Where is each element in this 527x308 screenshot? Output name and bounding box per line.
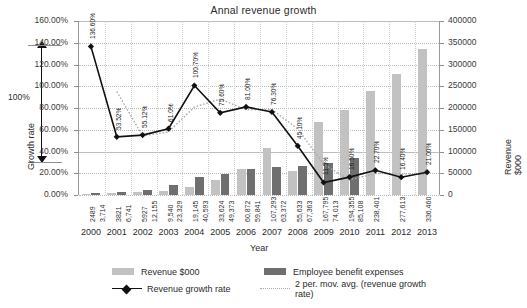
data-point-marker xyxy=(140,132,146,138)
data-point-marker xyxy=(372,167,378,173)
growth-rate-value-label: 136.60% xyxy=(89,13,96,39)
growth-rate-value-label: 16.40% xyxy=(399,148,406,170)
growth-rate-value-label: 100.70% xyxy=(192,52,199,78)
data-point-marker xyxy=(114,134,120,140)
growth-rate-value-label: 21.00% xyxy=(425,143,432,165)
data-point-marker xyxy=(243,104,249,110)
legend-label-growth-rate: Revenue growth rate xyxy=(147,284,231,294)
growth-rate-value-label: 61.0% xyxy=(167,103,174,122)
line-series-layer xyxy=(0,0,527,308)
legend-swatch-expenses-icon xyxy=(264,268,286,275)
data-point-marker xyxy=(398,174,404,180)
legend-label-moving-average: 2 per. mov. avg. (revenue growth rate) xyxy=(295,279,442,299)
growth-rate-value-label: 11.5% xyxy=(322,157,329,175)
legend-label-revenue: Revenue $000 xyxy=(141,267,200,277)
growth-rate-value-label: 16.50% xyxy=(348,148,355,170)
growth-rate-value-label: 76.30% xyxy=(270,83,277,105)
growth-rate-value-label: 75.60% xyxy=(218,83,225,105)
legend-item-revenue: Revenue $000 xyxy=(112,267,264,277)
legend-swatch-revenue-icon xyxy=(112,268,134,275)
legend-item-growth-rate: Revenue growth rate xyxy=(112,284,260,294)
growth-rate-value-label: 53.52% xyxy=(115,107,122,129)
legend-line-diamond-icon xyxy=(112,284,142,293)
growth-rate-value-label: 22.70% xyxy=(373,141,380,163)
growth-rate-value-label: 45.10% xyxy=(296,117,303,139)
data-point-marker xyxy=(424,169,430,175)
chart-container: Annal revenue growth 100% Growth rate Re… xyxy=(0,0,527,308)
chart-legend: Revenue $000 Employee benefit expenses R… xyxy=(112,263,442,297)
data-point-marker xyxy=(88,43,94,49)
legend-label-expenses: Employee benefit expenses xyxy=(293,267,404,277)
growth-rate-value-label: 81.00% xyxy=(244,78,251,100)
legend-item-moving-average: 2 per. mov. avg. (revenue growth rate) xyxy=(260,279,442,299)
legend-item-expenses: Employee benefit expenses xyxy=(264,267,404,277)
growth-rate-value-label: 55.12% xyxy=(141,106,148,128)
legend-line-dotted-icon xyxy=(260,284,290,293)
